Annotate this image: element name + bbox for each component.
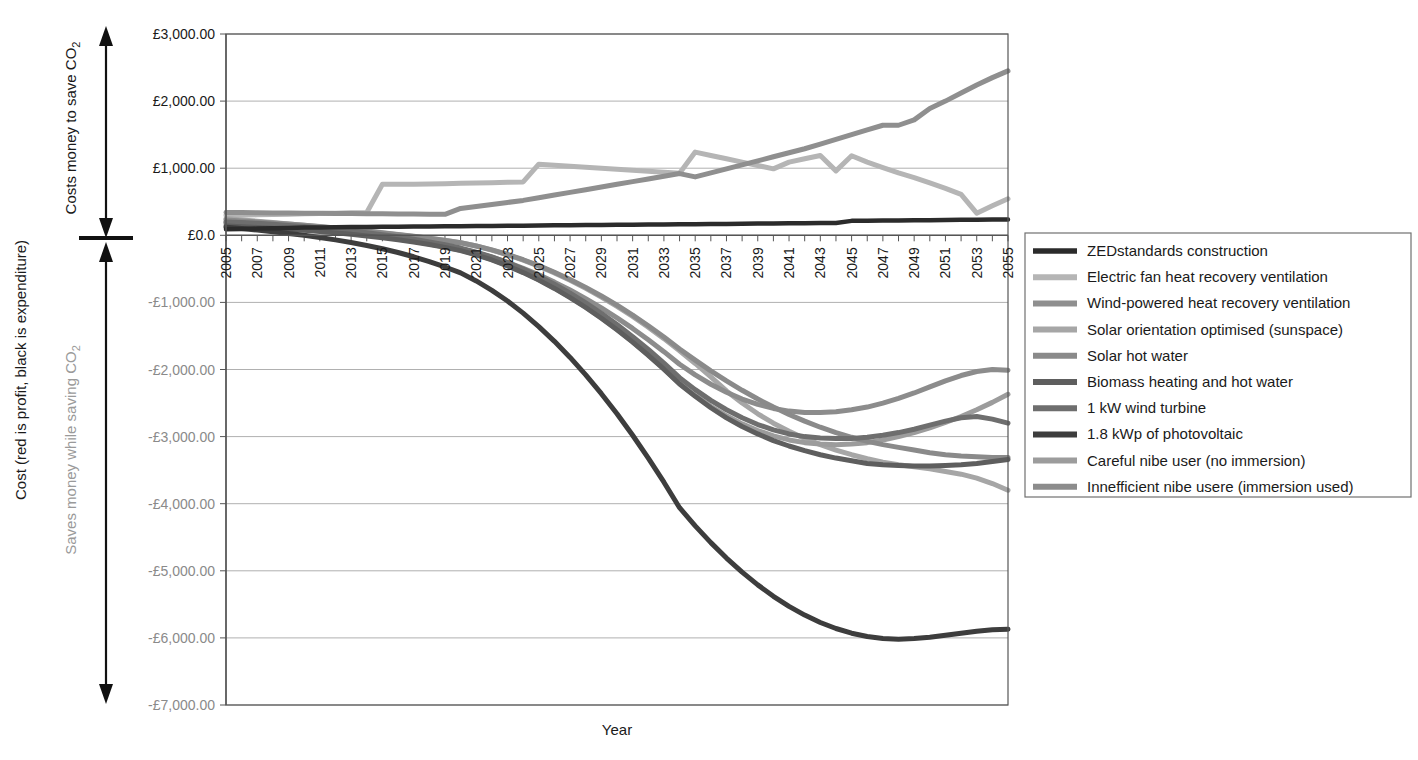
legend-label: Biomass heating and hot water bbox=[1087, 373, 1293, 390]
chart-legend: ZEDstandards constructionElectric fan he… bbox=[1025, 233, 1411, 497]
data-series-group bbox=[226, 71, 1008, 639]
y-tick-label: £0.0 bbox=[188, 227, 215, 243]
x-tick-label: 2033 bbox=[656, 247, 672, 278]
y-tick-label: -£2,000.00 bbox=[148, 362, 215, 378]
lower-range-annotation: Saves money while saving CO2 bbox=[62, 345, 82, 555]
gridlines bbox=[226, 34, 1008, 705]
upper-arrow-head-bottom bbox=[99, 218, 113, 238]
x-tick-label: 2007 bbox=[249, 247, 265, 278]
x-tick-label: 2041 bbox=[781, 247, 797, 278]
legend-label: Solar orientation optimised (sunspace) bbox=[1087, 321, 1343, 338]
y-tick-label: -£7,000.00 bbox=[148, 697, 215, 713]
x-tick-label: 2019 bbox=[437, 247, 453, 278]
y-tick-label: £3,000.00 bbox=[153, 26, 215, 42]
x-tick-label: 2055 bbox=[1000, 247, 1016, 278]
y-tick-label: -£5,000.00 bbox=[148, 563, 215, 579]
legend-label: Solar hot water bbox=[1087, 347, 1188, 364]
x-tick-label: 2015 bbox=[374, 247, 390, 278]
x-tick-label: 2043 bbox=[812, 247, 828, 278]
y-tick-label: -£3,000.00 bbox=[148, 429, 215, 445]
x-axis-title: Year bbox=[602, 721, 632, 738]
y-tick-label: -£1,000.00 bbox=[148, 294, 215, 310]
x-tick-label: 2051 bbox=[937, 247, 953, 278]
upper-range-annotation: Costs money to save CO2 bbox=[62, 42, 82, 215]
legend-label: ZEDstandards construction bbox=[1087, 242, 1268, 259]
x-tick-label: 2035 bbox=[687, 247, 703, 278]
x-tick-label: 2049 bbox=[906, 247, 922, 278]
legend-label: Careful nibe user (no immersion) bbox=[1087, 452, 1305, 469]
x-tick-label: 2009 bbox=[281, 247, 297, 278]
x-tick-label: 2011 bbox=[312, 247, 328, 277]
y-tick-label: £2,000.00 bbox=[153, 93, 215, 109]
chart-figure: £3,000.00£2,000.00£1,000.00£0.0-£1,000.0… bbox=[0, 0, 1418, 760]
x-tick-label: 2047 bbox=[875, 247, 891, 278]
lower-arrow-head-bottom bbox=[99, 684, 113, 704]
x-tick-label: 2017 bbox=[406, 247, 422, 278]
legend-label: Wind-powered heat recovery ventilation bbox=[1087, 294, 1350, 311]
x-tick-label: 2031 bbox=[625, 247, 641, 278]
x-axis-tick-labels: 2005200720092011201320152017201920212023… bbox=[218, 247, 1016, 278]
x-tick-label: 2025 bbox=[531, 247, 547, 278]
legend-label: Electric fan heat recovery ventilation bbox=[1087, 268, 1328, 285]
svg-text:Costs money to save CO2: Costs money to save CO2 bbox=[62, 42, 82, 215]
x-tick-label: 2029 bbox=[593, 247, 609, 278]
y-axis-title: Cost (red is profit, black is expenditur… bbox=[12, 240, 29, 500]
y-tick-label: -£6,000.00 bbox=[148, 630, 215, 646]
svg-text:Saves money while saving CO2: Saves money while saving CO2 bbox=[62, 345, 82, 555]
legend-label: 1 kW wind turbine bbox=[1087, 399, 1206, 416]
legend-label: 1.8 kWp of photovoltaic bbox=[1087, 425, 1243, 442]
x-tick-label: 2039 bbox=[750, 247, 766, 278]
series-line bbox=[226, 71, 1008, 214]
x-tick-label: 2053 bbox=[969, 247, 985, 278]
y-tick-label: -£4,000.00 bbox=[148, 496, 215, 512]
legend-label: Innefficient nibe usere (immersion used) bbox=[1087, 478, 1354, 495]
lower-arrow-head-top bbox=[99, 242, 113, 262]
x-tick-label: 2037 bbox=[718, 247, 734, 278]
x-tick-label: 2005 bbox=[218, 247, 234, 278]
y-tick-label: £1,000.00 bbox=[153, 160, 215, 176]
axis-annotations: Cost (red is profit, black is expenditur… bbox=[12, 26, 632, 738]
x-tick-label: 2013 bbox=[343, 247, 359, 278]
x-tick-label: 2023 bbox=[500, 247, 516, 278]
x-tick-label: 2045 bbox=[844, 247, 860, 278]
chart-canvas: £3,000.00£2,000.00£1,000.00£0.0-£1,000.0… bbox=[0, 0, 1418, 760]
x-tick-label: 2021 bbox=[468, 247, 484, 278]
series-line bbox=[226, 219, 1008, 229]
x-tick-label: 2027 bbox=[562, 247, 578, 278]
y-axis-tick-labels: £3,000.00£2,000.00£1,000.00£0.0-£1,000.0… bbox=[148, 26, 215, 713]
upper-arrow-head-top bbox=[99, 26, 113, 46]
